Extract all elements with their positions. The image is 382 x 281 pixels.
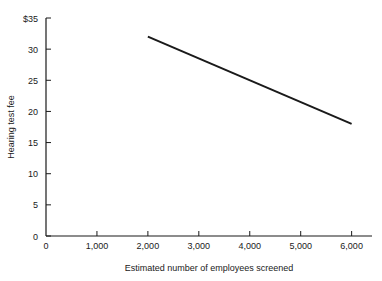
y-tick-label: 0 — [33, 232, 38, 242]
x-tick-label: 0 — [43, 241, 48, 251]
y-tick-label: 15 — [28, 138, 38, 148]
y-tick-label: 20 — [28, 107, 38, 117]
y-tick-label: 10 — [28, 169, 38, 179]
y-tick-label: 5 — [33, 200, 38, 210]
x-tick-label: 1,000 — [86, 241, 109, 251]
x-tick-label: 6,000 — [340, 241, 363, 251]
x-tick-label: 2,000 — [137, 241, 160, 251]
chart-background — [0, 0, 382, 281]
y-tick-label: $35 — [23, 14, 38, 24]
x-tick-label: 3,000 — [188, 241, 211, 251]
x-tick-label: 4,000 — [238, 241, 261, 251]
y-tick-label: 25 — [28, 76, 38, 86]
x-tick-label: 5,000 — [289, 241, 312, 251]
line-chart: 051015202530$35 01,0002,0003,0004,0005,0… — [0, 0, 382, 281]
y-tick-label: 30 — [28, 45, 38, 55]
y-axis-title: Hearing test fee — [6, 95, 16, 159]
x-axis-title: Estimated number of employees screened — [125, 263, 294, 273]
chart-container: 051015202530$35 01,0002,0003,0004,0005,0… — [0, 0, 382, 281]
